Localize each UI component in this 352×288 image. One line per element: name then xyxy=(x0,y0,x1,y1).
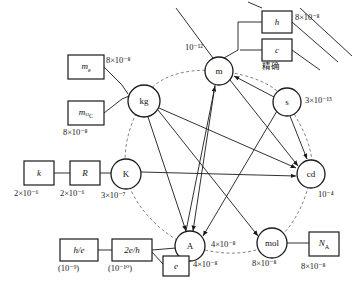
uncertainty-s: 3×10⁻¹⁵ xyxy=(305,96,332,105)
uncertainty-2e-over-h: (10⁻¹⁰) xyxy=(108,264,132,273)
box-label-R: R xyxy=(82,168,88,178)
uncertainty-h-over-e: (10⁻⁹) xyxy=(58,264,79,273)
box-subscript-m-e: e xyxy=(88,66,91,73)
arrow-A-m xyxy=(186,86,215,231)
diagram-canvas: kg m s cd mol A K 10⁻¹² 3×10⁻¹⁵ 10⁻⁴ 8×1… xyxy=(0,0,352,288)
uncertainty-m-12C: 8×10⁻⁸ xyxy=(63,128,87,137)
node-label-s: s xyxy=(285,97,289,107)
connector-me-kg xyxy=(104,67,128,94)
uncertainty-cd: 10⁻⁴ xyxy=(318,190,334,199)
connector-2eh-A xyxy=(152,248,176,250)
box-label-h-over-e: h/e xyxy=(74,245,85,255)
uncertainty-N-A: 8×10⁻⁸ xyxy=(301,262,325,271)
uncertainty-R: 2×10⁻⁶ xyxy=(60,189,84,198)
uncertainty-m: 10⁻¹² xyxy=(185,43,203,52)
box-label-m-12C: m¹²C xyxy=(79,107,93,119)
box-label-h: h xyxy=(275,17,280,27)
node-label-m: m xyxy=(215,66,222,76)
uncertainty-e: 4×10⁻⁸ xyxy=(193,260,217,269)
connector-h-m xyxy=(224,22,262,58)
uncertainty-k: 2×10⁻⁶ xyxy=(14,189,38,198)
connector-lines xyxy=(54,2,352,264)
box-label-N-A: NA xyxy=(319,238,329,250)
uncertainty-A: 4×10⁻⁸ xyxy=(211,240,235,249)
node-label-K: K xyxy=(123,169,130,179)
connector-m12c-kg xyxy=(104,96,129,113)
box-label-m-e: me xyxy=(81,61,90,73)
uncertainty-h: 8×10⁻⁸ xyxy=(295,13,319,22)
arrow-K-cd xyxy=(141,172,296,176)
uncertainty-m-e: 8×10⁻⁸ xyxy=(106,56,130,65)
uncertainty-K: 3×10⁻⁷ xyxy=(101,191,125,200)
box-subscript-m-12C: ¹²C xyxy=(85,112,93,119)
connector-h-topleft xyxy=(248,2,262,8)
diagram-vector-layer xyxy=(0,0,352,288)
connector-e-2eh xyxy=(152,252,163,264)
node-label-kg: kg xyxy=(140,96,149,106)
arrow-s-cd xyxy=(290,116,307,159)
node-label-cd: cd xyxy=(307,169,316,179)
box-label-k: k xyxy=(37,168,41,178)
node-label-A: A xyxy=(187,241,194,251)
box-label-c: c xyxy=(275,45,279,55)
box-subscript-N-A: A xyxy=(325,243,329,250)
uncertainty-c-exact: 精确 xyxy=(262,62,280,71)
node-label-mol: mol xyxy=(265,238,279,248)
arrow-s-m xyxy=(234,76,274,97)
box-label-2e-over-h: 2e/h xyxy=(124,245,140,255)
box-label-e: e xyxy=(174,261,178,271)
uncertainty-mol: 8×10⁻⁸ xyxy=(252,259,276,268)
connector-c-right xyxy=(292,50,320,70)
arrow-kg-A xyxy=(148,117,186,231)
connector-h-right xyxy=(292,22,338,62)
